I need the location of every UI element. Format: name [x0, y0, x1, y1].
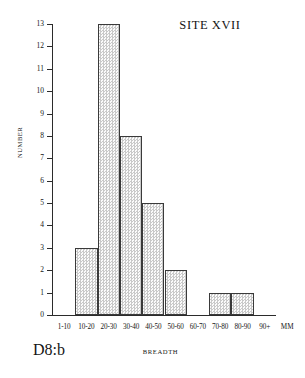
y-tick-2: 2 — [47, 270, 52, 271]
y-tick-label-7: 7 — [40, 152, 44, 163]
y-tick-3: 3 — [47, 248, 52, 249]
y-axis-title: NUMBER — [16, 127, 23, 158]
y-tick-7: 7 — [47, 158, 52, 159]
y-tick-label-12: 12 — [37, 40, 45, 51]
x-tick-label-20-30: 20-30 — [98, 322, 120, 332]
y-tick-10: 10 — [47, 91, 52, 92]
x-tick-label-70-80: 70-80 — [209, 322, 231, 332]
bar-30-40 — [120, 136, 142, 315]
bar-10-20 — [75, 248, 97, 315]
y-tick-label-2: 2 — [40, 264, 44, 275]
y-tick-label-11: 11 — [37, 63, 44, 74]
y-tick-label-10: 10 — [37, 85, 45, 96]
y-tick-label-9: 9 — [40, 108, 44, 119]
bar-50-60 — [165, 270, 187, 315]
x-tick-label-90+: 90+ — [254, 322, 276, 332]
plot-area: 012345678910111213 1-1010-2020-3030-4040… — [52, 20, 278, 319]
y-tick-label-5: 5 — [40, 197, 44, 208]
x-tick-label-80-90: 80-90 — [231, 322, 253, 332]
x-tick-label-1-10: 1-10 — [53, 322, 75, 332]
x-tick-label-60-70: 60-70 — [187, 322, 209, 332]
y-tick-label-3: 3 — [40, 242, 44, 253]
y-tick-1: 1 — [47, 293, 52, 294]
y-tick-9: 9 — [47, 114, 52, 115]
x-tick-label-50-60: 50-60 — [165, 322, 187, 332]
y-tick-label-4: 4 — [40, 219, 44, 230]
y-tick-label-8: 8 — [40, 130, 44, 141]
x-tick-label-10-20: 10-20 — [75, 322, 97, 332]
y-tick-8: 8 — [47, 136, 52, 137]
bars-container — [53, 24, 276, 315]
y-tick-label-0: 0 — [40, 309, 44, 320]
bar-20-30 — [98, 24, 120, 315]
y-tick-4: 4 — [47, 225, 52, 226]
x-axis-title: BREADTH — [0, 348, 305, 355]
y-tick-11: 11 — [47, 69, 52, 70]
x-tick-label-40-50: 40-50 — [142, 322, 164, 332]
y-tick-label-1: 1 — [40, 287, 44, 298]
x-axis-unit-label: MM — [276, 322, 298, 332]
histogram-figure: SITE XVII NUMBER 012345678910111213 1-10… — [0, 0, 305, 378]
x-tick-label-30-40: 30-40 — [120, 322, 142, 332]
y-tick-6: 6 — [47, 181, 52, 182]
y-tick-label-6: 6 — [40, 175, 44, 186]
bar-80-90 — [231, 293, 253, 315]
bar-40-50 — [142, 203, 164, 315]
bar-70-80 — [209, 293, 231, 315]
y-tick-13: 13 — [47, 24, 52, 25]
x-axis-line — [52, 315, 276, 316]
y-tick-5: 5 — [47, 203, 52, 204]
y-tick-label-13: 13 — [37, 18, 45, 29]
y-tick-12: 12 — [47, 46, 52, 47]
y-tick-0: 0 — [47, 315, 52, 316]
